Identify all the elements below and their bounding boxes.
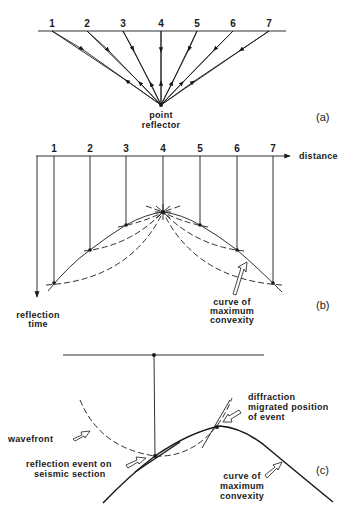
ray-paths: [52, 31, 269, 105]
station-label: 5: [197, 143, 203, 154]
panel-label-a: (a): [316, 111, 329, 123]
station-label: 7: [266, 18, 272, 29]
diffraction-tangent: [202, 400, 230, 448]
station-label: 7: [270, 143, 276, 154]
reflection-tangent: [135, 442, 180, 472]
distance-axis-label: distance: [299, 151, 338, 161]
station-label: 1: [51, 143, 57, 154]
station-label: 2: [84, 18, 90, 29]
max-convexity-curve: [103, 426, 333, 503]
curve-label: maximum: [220, 481, 264, 491]
station-label: 6: [230, 18, 236, 29]
diffraction-label: of event: [248, 412, 285, 422]
diffraction-label: migrated position: [248, 402, 329, 412]
station-label: 2: [87, 143, 93, 154]
curve-pointer-arrow: [233, 262, 247, 295]
panel-c: wavefront reflection event on seismic se…: [7, 353, 333, 503]
migrated-position-point: [215, 425, 219, 429]
panel-label-b: (b): [316, 299, 329, 311]
reflector-label: point: [149, 110, 173, 120]
curve-label: curve of: [223, 471, 261, 481]
station-label: 3: [120, 18, 126, 29]
wavefront-label: wavefront: [7, 434, 53, 444]
panel-label-c: (c): [316, 464, 329, 476]
time-axis-label: time: [28, 319, 48, 329]
station-label: 4: [158, 18, 164, 29]
reflection-event-label: reflection event on: [26, 459, 112, 469]
vertical-ray: [154, 355, 155, 456]
panel-a: 1 2 3 4 5 6 7: [38, 18, 329, 130]
station-label: 6: [234, 143, 240, 154]
diffraction-label: diffraction: [248, 392, 295, 402]
panel-b: distance reflection time 1 2 3 4 5 6 7: [16, 143, 338, 329]
curve-label: convexity: [220, 491, 264, 501]
point-reflector: [159, 103, 163, 107]
station-label: 4: [160, 143, 166, 154]
seismic-migration-diagram: 1 2 3 4 5 6 7: [0, 0, 354, 518]
station-labels: 1 2 3 4 5 6 7: [49, 18, 272, 29]
reflection-event-label: seismic section: [34, 469, 106, 479]
curve-pointer-arrow: [265, 462, 282, 478]
curve-label: convexity: [210, 315, 254, 325]
wavefront-pointer-arrow: [73, 431, 90, 441]
station-labels: 1 2 3 4 5 6 7: [51, 143, 276, 154]
station-traces: [54, 156, 273, 283]
diffraction-hyperbola: [48, 212, 282, 292]
reflection-event-point: [153, 454, 157, 458]
wavefront-arc: [80, 398, 232, 456]
diffraction-pointer-arrow: [223, 410, 241, 422]
station-label: 1: [49, 18, 55, 29]
wavefront-arcs: [46, 206, 282, 285]
station-label: 5: [194, 18, 200, 29]
station-label: 3: [123, 143, 129, 154]
reflector-label: reflector: [142, 120, 181, 130]
